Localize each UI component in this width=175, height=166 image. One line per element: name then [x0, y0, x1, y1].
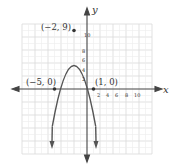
- svg-text:2: 2: [82, 76, 85, 82]
- svg-text:8: 8: [125, 92, 128, 98]
- vertex-point: [72, 29, 76, 33]
- root-left-label: (−5, 0): [26, 77, 56, 87]
- svg-text:8: 8: [82, 48, 85, 54]
- root-right-point: [92, 87, 96, 91]
- x-axis-label: x: [163, 84, 169, 95]
- svg-text:6: 6: [82, 57, 85, 63]
- svg-text:6: 6: [115, 92, 118, 98]
- coordinate-plane: y x (−2, 9) (−5, 0) (1, 0) 2 4 6 8 10 2 …: [0, 0, 175, 166]
- vertex-label: (−2, 9): [41, 22, 71, 32]
- root-left-point: [53, 87, 57, 91]
- svg-text:4: 4: [82, 67, 85, 73]
- svg-text:10: 10: [134, 92, 140, 98]
- svg-text:4: 4: [106, 92, 109, 98]
- svg-text:10: 10: [84, 32, 90, 38]
- y-tick-labels: 2 4 6 8 10: [82, 32, 90, 82]
- y-axis-label: y: [91, 4, 98, 15]
- svg-text:2: 2: [97, 92, 100, 98]
- root-right-label: (1, 0): [95, 77, 118, 87]
- x-tick-labels: 2 4 6 8 10: [97, 92, 140, 98]
